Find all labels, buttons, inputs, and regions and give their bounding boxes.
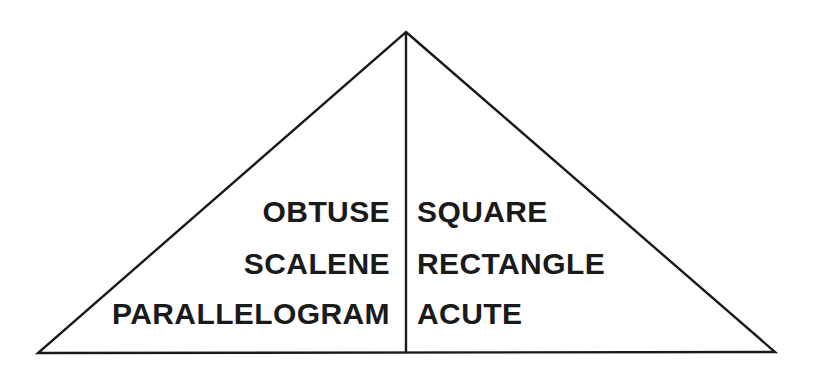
term-labels-layer: OBTUSE SCALENE PARALLELOGRAM SQUARE RECT… (0, 0, 813, 374)
term-left-scalene: SCALENE (244, 249, 390, 279)
term-right-acute: ACUTE (417, 299, 522, 329)
geometry-terms-triangle-diagram: OBTUSE SCALENE PARALLELOGRAM SQUARE RECT… (0, 0, 813, 374)
term-right-rectangle: RECTANGLE (417, 249, 605, 279)
term-left-obtuse: OBTUSE (263, 197, 390, 227)
term-right-square: SQUARE (417, 197, 548, 227)
term-left-parallelogram: PARALLELOGRAM (112, 299, 390, 329)
